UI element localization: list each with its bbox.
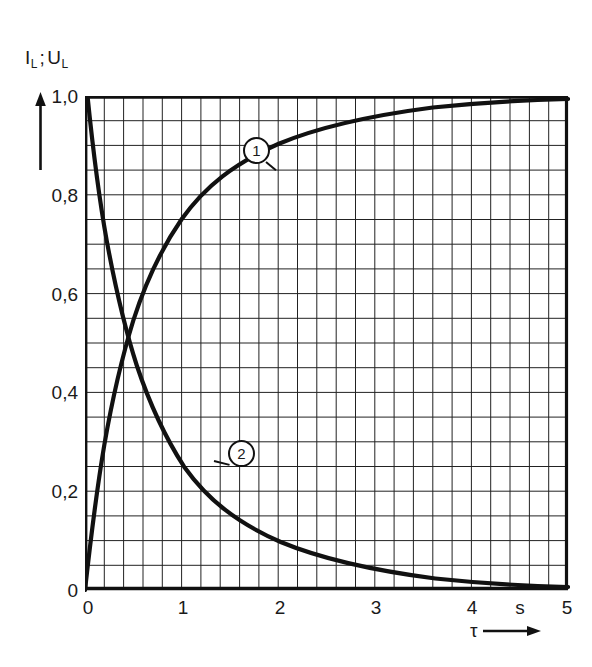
x-axis-caption-symbol: τ [470,620,478,642]
x-tick-label-5: 5 [547,598,587,617]
x-tick-label-3: 3 [356,598,396,617]
x-axis-tick-labels: 0 1 2 3 4 s 5 [0,0,592,667]
x-axis-arrow-icon [483,624,541,638]
x-axis-unit-label: s [500,598,540,617]
x-axis-caption: τ [470,620,541,642]
x-tick-label-1: 1 [163,598,203,617]
x-tick-label-4: 4 [452,598,492,617]
exponential-curves-figure: IL;UL 1,0 0,8 0,6 0,4 0,2 0 [0,0,592,667]
x-tick-label-0: 0 [68,598,108,617]
x-tick-label-2: 2 [260,598,300,617]
